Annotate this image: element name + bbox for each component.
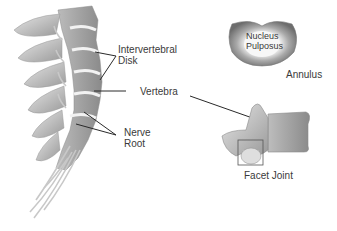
label-facet-joint: Facet Joint [244, 170, 293, 181]
spinous-process [14, 14, 60, 36]
label-annulus: Annulus [286, 69, 322, 80]
vertebra-illustration [222, 104, 310, 165]
cervical-spine-illustration [14, 6, 102, 218]
label-pulposus: Pulposus [246, 41, 283, 51]
label-nucleus: Nucleus [246, 31, 279, 41]
posterior-arch [222, 104, 268, 156]
spinous-process [24, 62, 66, 88]
diagram-canvas [0, 0, 337, 231]
spinous-process [18, 38, 62, 62]
label-intervertebral: Intervertebral [118, 44, 177, 55]
label-disk: Disk [118, 55, 137, 66]
label-vertebra: Vertebra [140, 86, 178, 97]
label-root: Root [124, 138, 145, 149]
spinous-process [32, 110, 64, 138]
label-nerve: Nerve [124, 127, 151, 138]
facet-process [241, 148, 261, 164]
vertebral-body [268, 112, 310, 152]
disk-leader-lower [100, 56, 116, 80]
